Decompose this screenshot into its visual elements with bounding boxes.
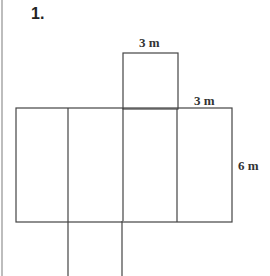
prism-net-figure [0, 0, 270, 276]
label-height: 6 m [238, 158, 259, 174]
net-lateral-strip [16, 108, 232, 222]
label-top-width: 3 m [139, 35, 160, 51]
label-right-width: 3 m [194, 93, 215, 109]
net-top-face [123, 53, 178, 109]
